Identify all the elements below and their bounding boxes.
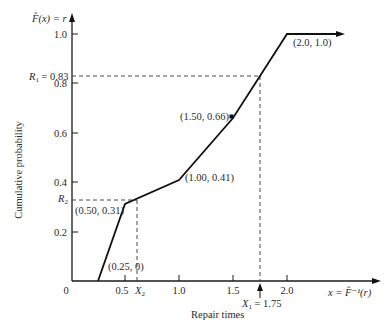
label-point-100-041: (1.00, 0.41) — [185, 172, 234, 184]
y-ticks — [72, 34, 78, 232]
label-point-150-066: (1.50, 0.66) — [180, 111, 229, 123]
svg-text:0.5: 0.5 — [115, 285, 128, 296]
svg-text:0.4: 0.4 — [54, 177, 68, 188]
cdf-curve — [98, 34, 340, 281]
x1-arrow-icon — [257, 283, 263, 291]
svg-text:1.5: 1.5 — [226, 285, 239, 296]
y-axis-label: Cumulative probability — [13, 120, 24, 218]
svg-text:2.0: 2.0 — [280, 285, 293, 296]
svg-text:1.0: 1.0 — [172, 285, 185, 296]
x-ticks — [125, 275, 287, 281]
svg-text:0.2: 0.2 — [54, 227, 67, 238]
label-point-050-031: (0.50, 0.31) — [75, 205, 124, 217]
svg-text:1.0: 1.0 — [54, 29, 67, 40]
x-axis-arrow-icon — [372, 278, 381, 284]
curve-arrow-icon — [336, 31, 345, 37]
x-axis-label: Repair times — [191, 309, 244, 320]
cdf-chart: 0.2 0.4 0.6 0.8 1.0 0 0.5 1.0 1.5 2.0 (0… — [0, 0, 389, 333]
x-axis-title: x = F̂⁻¹(r) — [327, 286, 372, 299]
y-tick-labels: 0.2 0.4 0.6 0.8 1.0 — [54, 29, 68, 238]
label-point-20-10: (2.0, 1.0) — [293, 37, 332, 49]
label-point-025-0: (0.25, 0) — [108, 261, 144, 273]
x1-label: X1 = 1.75 — [241, 298, 281, 311]
y-axis-title: F̂(x) = r — [31, 12, 67, 25]
x2-label: X2 — [134, 285, 145, 298]
y-axis-arrow-icon — [69, 13, 75, 22]
point-marker — [230, 115, 234, 119]
r2-label: R2 — [57, 193, 68, 206]
svg-text:0: 0 — [63, 285, 68, 296]
svg-text:0.6: 0.6 — [54, 128, 67, 139]
